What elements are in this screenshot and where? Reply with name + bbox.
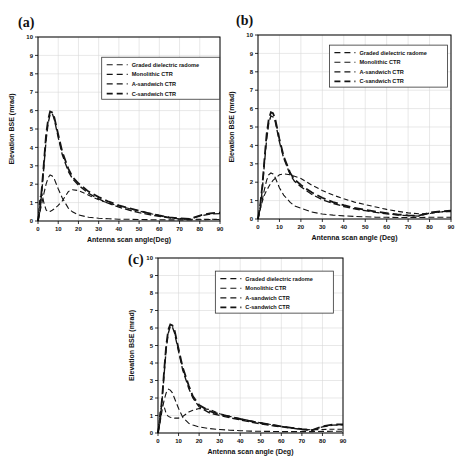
series-group bbox=[158, 325, 343, 434]
x-tick-label: 20 bbox=[75, 226, 82, 232]
chart-panel-c: (c) 0102030405060708090012345678910Anten… bbox=[122, 231, 372, 463]
x-tick-label: 10 bbox=[175, 438, 182, 444]
x-tick-label: 30 bbox=[216, 438, 223, 444]
x-tick-label: 70 bbox=[405, 224, 412, 230]
legend-label-c-sandwich-ctr: C-sandwich CTR bbox=[359, 78, 403, 84]
y-tick-label: 10 bbox=[246, 32, 253, 38]
x-tick-label: 30 bbox=[319, 224, 326, 230]
x-tick-label: 0 bbox=[256, 224, 260, 230]
y-tick-label: 1 bbox=[250, 198, 254, 204]
legend-label-graded-dielectric-radome: Graded dielectric radome bbox=[245, 276, 312, 282]
legend-label-a-sandwich-ctr: A-sandwich CTR bbox=[245, 295, 289, 301]
x-tick-label: 60 bbox=[383, 224, 390, 230]
y-tick-label: 10 bbox=[146, 255, 153, 261]
x-tick-label: 0 bbox=[36, 226, 40, 232]
y-tick-label: 4 bbox=[30, 145, 34, 151]
figure-canvas: (a) 0102030405060708090012345678910Anten… bbox=[0, 0, 472, 471]
series-curve-a-sandwich-ctr bbox=[158, 326, 343, 433]
panel-label-c: (c) bbox=[128, 252, 144, 268]
x-tick-label: 40 bbox=[237, 438, 244, 444]
legend-label-c-sandwich-ctr: C-sandwich CTR bbox=[245, 304, 289, 310]
y-tick-label: 3 bbox=[30, 163, 34, 169]
legend-label-graded-dielectric-radome: Graded dielectric radome bbox=[132, 62, 199, 68]
y-tick-label: 2 bbox=[30, 181, 34, 187]
chart-panel-b: (b) 0102030405060708090012345678910Anten… bbox=[222, 8, 472, 244]
y-tick-label: 0 bbox=[250, 216, 254, 222]
series-curve-monolithic-ctr bbox=[158, 389, 343, 433]
y-tick-label: 6 bbox=[250, 106, 254, 112]
y-tick-label: 0 bbox=[30, 218, 34, 224]
x-tick-label: 60 bbox=[278, 438, 285, 444]
legend-label-monolithic-ctr: Monolithic CTR bbox=[359, 59, 400, 65]
y-tick-label: 3 bbox=[250, 161, 254, 167]
x-tick-label: 70 bbox=[299, 438, 306, 444]
y-tick-label: 9 bbox=[30, 53, 34, 59]
y-tick-label: 7 bbox=[150, 308, 154, 314]
legend-label-monolithic-ctr: Monolithic CTR bbox=[245, 285, 286, 291]
series-curve-graded-dielectric-radome bbox=[38, 190, 220, 221]
series-curve-c-sandwich-ctr bbox=[38, 112, 220, 222]
y-tick-label: 0 bbox=[150, 430, 154, 436]
y-tick-label: 7 bbox=[250, 87, 254, 93]
x-tick-label: 20 bbox=[196, 438, 203, 444]
y-tick-label: 8 bbox=[150, 290, 154, 296]
x-tick-label: 80 bbox=[319, 438, 326, 444]
x-tick-label: 90 bbox=[448, 224, 455, 230]
x-tick-label: 90 bbox=[340, 438, 347, 444]
legend: Graded dielectric radomeMonolithic CTRA-… bbox=[102, 57, 220, 99]
x-tick-label: 10 bbox=[276, 224, 283, 230]
series-group bbox=[258, 112, 451, 219]
y-tick-label: 6 bbox=[30, 108, 34, 114]
x-tick-label: 10 bbox=[55, 226, 62, 232]
panel-label-b: (b) bbox=[236, 13, 253, 29]
chart-b-plot: 0102030405060708090012345678910Antenna s… bbox=[222, 8, 472, 244]
y-tick-label: 1 bbox=[150, 413, 154, 419]
y-tick-label: 3 bbox=[150, 378, 154, 384]
chart-a-plot: 0102030405060708090012345678910Antenna s… bbox=[2, 10, 230, 246]
x-axis-label: Antenna scan angle (Deg) bbox=[208, 448, 294, 456]
legend-label-a-sandwich-ctr: A-sandwich CTR bbox=[359, 69, 403, 75]
panel-label-a: (a) bbox=[18, 15, 34, 31]
x-tick-label: 40 bbox=[340, 224, 347, 230]
legend-label-monolithic-ctr: Monolithic CTR bbox=[132, 71, 173, 77]
y-tick-label: 9 bbox=[250, 51, 254, 57]
y-tick-label: 5 bbox=[30, 126, 34, 132]
y-tick-label: 6 bbox=[150, 325, 154, 331]
series-curve-a-sandwich-ctr bbox=[258, 116, 451, 219]
legend: Graded dielectric radomeMonolithic CTRA-… bbox=[215, 271, 333, 313]
series-curve-monolithic-ctr bbox=[38, 175, 220, 221]
legend-label-a-sandwich-ctr: A-sandwich CTR bbox=[132, 81, 176, 87]
series-curve-c-sandwich-ctr bbox=[258, 112, 451, 219]
series-curve-monolithic-ctr bbox=[258, 173, 451, 219]
y-tick-label: 8 bbox=[250, 69, 254, 75]
series-group bbox=[38, 112, 220, 222]
y-tick-label: 4 bbox=[250, 143, 254, 149]
y-tick-label: 10 bbox=[26, 34, 33, 40]
y-tick-label: 5 bbox=[150, 343, 154, 349]
y-tick-label: 2 bbox=[150, 395, 154, 401]
chart-panel-a: (a) 0102030405060708090012345678910Anten… bbox=[2, 10, 230, 246]
y-axis-label: Elevation BSE (mrad) bbox=[128, 310, 136, 381]
chart-c-plot: 0102030405060708090012345678910Antenna s… bbox=[122, 231, 372, 463]
x-tick-label: 30 bbox=[95, 226, 102, 232]
x-tick-label: 0 bbox=[156, 438, 160, 444]
series-curve-graded-dielectric-radome bbox=[258, 174, 451, 219]
legend: Graded dielectric radomeMonolithic CTRA-… bbox=[329, 45, 447, 87]
y-axis-label: Elevation BSE (mrad) bbox=[8, 93, 16, 164]
y-tick-label: 1 bbox=[30, 200, 34, 206]
series-curve-a-sandwich-ctr bbox=[38, 113, 220, 221]
x-tick-label: 80 bbox=[426, 224, 433, 230]
y-tick-label: 7 bbox=[30, 89, 34, 95]
x-tick-label: 50 bbox=[362, 224, 369, 230]
y-tick-label: 8 bbox=[30, 71, 34, 77]
y-tick-label: 9 bbox=[150, 273, 154, 279]
x-tick-label: 20 bbox=[298, 224, 305, 230]
legend-label-c-sandwich-ctr: C-sandwich CTR bbox=[132, 91, 176, 97]
y-axis-label: Elevation BSE (mrad) bbox=[228, 91, 236, 162]
y-tick-label: 4 bbox=[150, 360, 154, 366]
y-tick-label: 2 bbox=[250, 179, 254, 185]
legend-label-graded-dielectric-radome: Graded dielectric radome bbox=[359, 50, 426, 56]
y-tick-label: 5 bbox=[250, 124, 254, 130]
x-tick-label: 50 bbox=[257, 438, 264, 444]
